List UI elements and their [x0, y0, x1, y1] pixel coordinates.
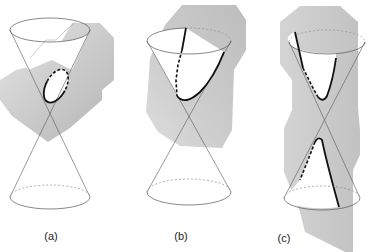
panel-c: [280, 6, 365, 252]
panel-label-b: (b): [166, 230, 196, 242]
lower-rim-a-visible: [10, 197, 90, 209]
panel-b: [146, 5, 246, 205]
panel-label-a: (a): [36, 230, 66, 242]
lower-rim-b-hidden: [147, 179, 231, 192]
conic-sections-figure: [0, 0, 377, 252]
lower-rim-b-visible: [147, 192, 231, 205]
panel-a: [0, 18, 114, 209]
panel-label-c: (c): [269, 232, 299, 244]
lower-rim-a-hidden: [10, 185, 90, 197]
